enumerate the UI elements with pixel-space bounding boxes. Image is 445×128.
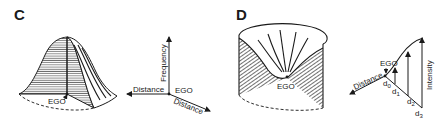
panel-d-label: D: [236, 6, 247, 23]
distance-axis-diagonal-label: Distance: [172, 97, 205, 117]
panel-c-label: C: [14, 6, 25, 23]
panel-d: D EGO: [236, 6, 434, 119]
distance-mark-d2: d2: [407, 97, 415, 107]
origin-ego-label-d: EGO: [380, 59, 398, 68]
diagram-canvas: C EGO Frequency Distance EGO: [0, 0, 445, 128]
frequency-surface: EGO: [19, 37, 117, 110]
intensity-cylinder: EGO: [239, 24, 327, 111]
intensity-axis-label: Intensity: [425, 60, 434, 90]
surface-ego-label: EGO: [48, 97, 66, 106]
surface-ego-label-d: EGO: [277, 82, 295, 91]
panel-c: C EGO Frequency Distance EGO: [14, 6, 210, 117]
axes-d: EGO Distance Intensity d0 d1 d2 d3: [350, 38, 434, 119]
frequency-axis-label: Frequency: [159, 44, 168, 82]
distance-mark-d3: d3: [415, 109, 423, 119]
distance-axis-left-label: Distance: [133, 85, 165, 94]
axes-c: Frequency Distance EGO Distance: [127, 37, 210, 117]
distance-axis-label-d: Distance: [352, 70, 385, 92]
origin-ego-label: EGO: [175, 86, 193, 95]
